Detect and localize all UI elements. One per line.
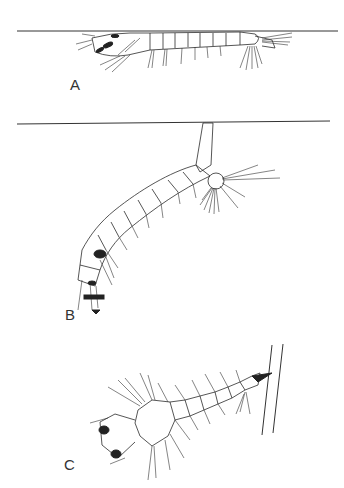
panel-label-c: C	[64, 456, 75, 473]
larva-hanging-illustration	[0, 110, 344, 330]
panel-label-b: B	[65, 306, 75, 323]
larva-horizontal-illustration	[0, 0, 344, 100]
panel-label-a: A	[70, 76, 80, 93]
panel-a: A	[0, 0, 344, 100]
panel-b: B	[0, 110, 344, 330]
plant-stem-line	[262, 345, 272, 435]
panel-c: C	[0, 330, 344, 488]
water-surface-line	[17, 121, 330, 124]
larva-on-plant-stem-illustration	[0, 330, 344, 488]
